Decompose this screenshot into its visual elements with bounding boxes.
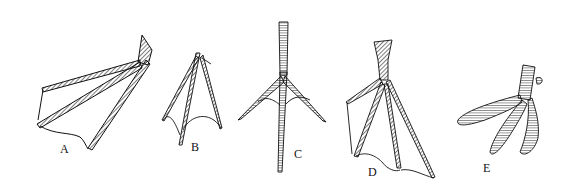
label-e: E bbox=[483, 161, 490, 176]
label-b: B bbox=[191, 140, 199, 155]
foot-a-drawing bbox=[37, 35, 152, 150]
foot-e-drawing bbox=[458, 65, 543, 154]
foot-b-drawing bbox=[162, 53, 222, 145]
label-c: C bbox=[294, 147, 302, 162]
foot-c-drawing bbox=[238, 22, 326, 172]
foot-d-drawing bbox=[346, 40, 435, 178]
bird-feet-figure: A B C D E bbox=[0, 0, 574, 195]
label-a: A bbox=[60, 142, 69, 157]
label-d: D bbox=[368, 165, 377, 180]
